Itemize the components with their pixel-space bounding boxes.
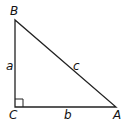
side-label-c: c	[73, 59, 80, 73]
side-label-a: a	[6, 59, 13, 73]
triangle-outline	[15, 20, 116, 107]
side-label-b: b	[64, 108, 72, 122]
vertex-label-b: B	[10, 4, 18, 18]
right-triangle-diagram: B C A a b c	[0, 0, 127, 123]
vertex-label-a: A	[112, 108, 121, 122]
vertex-label-c: C	[9, 108, 18, 122]
right-angle-marker	[15, 99, 23, 107]
